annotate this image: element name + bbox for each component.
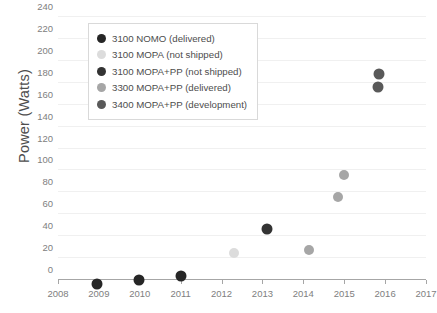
y-axis-tick-label: 20 (42, 242, 53, 253)
x-axis-tick (303, 280, 304, 284)
x-axis-tick (262, 280, 263, 284)
legend-item[interactable]: 3100 NOMO (delivered) (97, 30, 247, 47)
y-axis-tick-label: 60 (42, 198, 53, 209)
data-point (373, 69, 384, 80)
legend-item[interactable]: 3100 MOPA+PP (not shipped) (97, 63, 247, 80)
y-axis-tick-label: 80 (42, 176, 53, 187)
gridline (58, 126, 426, 127)
legend-marker-icon (97, 50, 106, 59)
x-axis-tick-label: 2008 (47, 288, 68, 299)
y-axis-tick-label: 100 (37, 154, 53, 165)
legend-marker-icon (97, 34, 106, 43)
y-axis-tick-label: 200 (37, 44, 53, 55)
x-axis-tick-label: 2013 (252, 288, 273, 299)
x-axis-tick (385, 280, 386, 284)
legend-item[interactable]: 3300 MOPA+PP (delivered) (97, 80, 247, 97)
x-axis-tick-label: 2010 (129, 288, 150, 299)
x-axis-tick (58, 280, 59, 284)
x-axis-tick-label: 2011 (170, 288, 190, 299)
x-axis-tick-label: 2014 (293, 288, 314, 299)
x-axis-tick-label: 2015 (334, 288, 355, 299)
legend-marker-icon (97, 67, 106, 76)
data-point (304, 245, 314, 255)
x-axis-line (58, 279, 426, 280)
y-axis-tick-label: 140 (37, 110, 53, 121)
data-point (262, 223, 273, 234)
data-point (339, 170, 349, 180)
data-point (333, 192, 343, 202)
data-point (229, 248, 239, 258)
gridline (58, 148, 426, 149)
gridline (58, 213, 426, 214)
legend-item-label: 3100 NOMO (delivered) (112, 33, 215, 44)
x-axis-tick (344, 280, 345, 284)
legend-item-label: 3100 MOPA (not shipped) (112, 49, 223, 60)
legend-item-label: 3400 MOPA+PP (development) (112, 99, 247, 110)
x-axis-tick (222, 280, 223, 284)
gridline (58, 191, 426, 192)
x-axis-tick-label: 2016 (375, 288, 396, 299)
x-axis-tick (426, 280, 427, 284)
y-axis-title: Power (Watts) (16, 36, 32, 196)
legend-item[interactable]: 3400 MOPA+PP (development) (97, 96, 247, 113)
legend-marker-icon (97, 100, 106, 109)
x-axis-tick-label: 2017 (415, 288, 436, 299)
chart-legend: 3100 NOMO (delivered)3100 MOPA (not ship… (88, 23, 258, 120)
gridline (58, 16, 426, 17)
legend-marker-icon (97, 83, 106, 92)
legend-item[interactable]: 3100 MOPA (not shipped) (97, 47, 247, 64)
legend-item-label: 3300 MOPA+PP (delivered) (112, 82, 231, 93)
gridline (58, 169, 426, 170)
y-axis-tick-label: 120 (37, 132, 53, 143)
data-point (372, 82, 383, 93)
y-axis-tick-label: 240 (37, 1, 53, 12)
y-axis-tick-label: 180 (37, 66, 53, 77)
gridline (58, 235, 426, 236)
x-axis-tick-label: 2009 (88, 288, 109, 299)
y-axis-tick-label: 0 (48, 264, 53, 275)
gridline (58, 257, 426, 258)
x-axis-tick-label: 2012 (211, 288, 232, 299)
y-axis-tick-label: 220 (37, 22, 53, 33)
y-axis-tick-label: 160 (37, 88, 53, 99)
legend-item-label: 3100 MOPA+PP (not shipped) (112, 66, 242, 77)
data-point (133, 275, 144, 286)
data-point (175, 270, 186, 281)
data-point (91, 279, 102, 290)
y-axis-tick-label: 40 (42, 220, 53, 231)
